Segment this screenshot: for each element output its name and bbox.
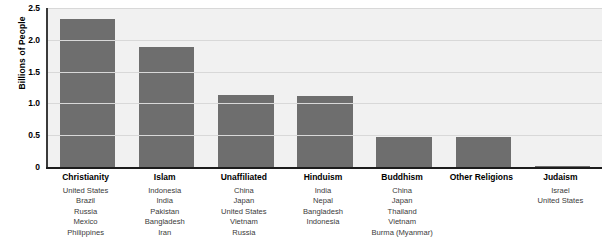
x-axis-line — [46, 167, 602, 169]
country-name: Brazil — [46, 196, 125, 206]
top-edge-clip — [0, 0, 616, 3]
y-tick-label: 2.5 — [28, 3, 40, 13]
y-axis-tick-labels: 00.51.01.52.02.5 — [0, 0, 44, 172]
x-label-group: IslamIndonesiaIndiaPakistanBangladeshIra… — [125, 172, 204, 238]
x-label-group: JudaismIsraelUnited States — [521, 172, 600, 207]
bar — [297, 96, 352, 167]
gridline — [48, 72, 602, 73]
country-name: Thailand — [363, 207, 442, 217]
country-name: Russia — [46, 207, 125, 217]
y-tick-label: 1.5 — [28, 67, 40, 77]
country-name: United States — [521, 196, 600, 206]
country-name: Israel — [521, 186, 600, 196]
category-name: Unaffiliated — [204, 172, 283, 183]
country-name: Philippines — [46, 228, 125, 238]
bar-series — [48, 8, 602, 167]
y-tick-label: 2.0 — [28, 35, 40, 45]
country-name: Vietnam — [363, 217, 442, 227]
bar — [218, 95, 273, 168]
category-name: Islam — [125, 172, 204, 183]
country-name: United States — [204, 207, 283, 217]
gridline — [48, 135, 602, 136]
bar — [456, 137, 511, 167]
country-name: Bangladesh — [283, 207, 362, 217]
country-name: Bangladesh — [125, 217, 204, 227]
x-label-group: BuddhismChinaJapanThailandVietnamBurma (… — [363, 172, 442, 238]
y-tick-label: 0.5 — [28, 130, 40, 140]
country-name: China — [363, 186, 442, 196]
category-name: Other Religions — [442, 172, 521, 183]
country-name: Nepal — [283, 196, 362, 206]
country-name: Indonesia — [125, 186, 204, 196]
x-axis-category-labels: ChristianityUnited StatesBrazilRussiaMex… — [46, 172, 602, 246]
country-name: Japan — [363, 196, 442, 206]
y-tick-label: 1.0 — [28, 98, 40, 108]
gridline — [48, 8, 602, 9]
country-name: Mexico — [46, 217, 125, 227]
plot-area — [46, 8, 602, 167]
country-name: Pakistan — [125, 207, 204, 217]
country-name: Burma (Myanmar) — [363, 228, 442, 238]
country-name: Indonesia — [283, 217, 362, 227]
country-name: Russia — [204, 228, 283, 238]
x-label-group: Other Religions — [442, 172, 521, 186]
religion-population-bar-chart: Billions of People 00.51.01.52.02.5 Chri… — [0, 0, 616, 246]
x-label-group: UnaffiliatedChinaJapanUnited StatesVietn… — [204, 172, 283, 238]
country-name: India — [283, 186, 362, 196]
category-name: Judaism — [521, 172, 600, 183]
bar — [60, 19, 115, 167]
country-name: Vietnam — [204, 217, 283, 227]
gridline — [48, 103, 602, 104]
country-list: ChinaJapanThailandVietnamBurma (Myanmar) — [363, 186, 442, 238]
country-list: ChinaJapanUnited StatesVietnamRussia — [204, 186, 283, 238]
country-list: United StatesBrazilRussiaMexicoPhilippin… — [46, 186, 125, 238]
country-list: IndiaNepalBangladeshIndonesia — [283, 186, 362, 228]
country-name: India — [125, 196, 204, 206]
bar — [376, 137, 431, 167]
category-name: Buddhism — [363, 172, 442, 183]
country-name: Iran — [125, 228, 204, 238]
x-label-group: ChristianityUnited StatesBrazilRussiaMex… — [46, 172, 125, 238]
category-name: Hinduism — [283, 172, 362, 183]
category-name: Christianity — [46, 172, 125, 183]
country-name: United States — [46, 186, 125, 196]
y-tick-label: 0 — [35, 162, 40, 172]
gridline — [48, 40, 602, 41]
bar — [139, 47, 194, 167]
country-list: IndonesiaIndiaPakistanBangladeshIran — [125, 186, 204, 238]
country-name: Japan — [204, 196, 283, 206]
country-name: China — [204, 186, 283, 196]
x-label-group: HinduismIndiaNepalBangladeshIndonesia — [283, 172, 362, 228]
country-list: IsraelUnited States — [521, 186, 600, 207]
